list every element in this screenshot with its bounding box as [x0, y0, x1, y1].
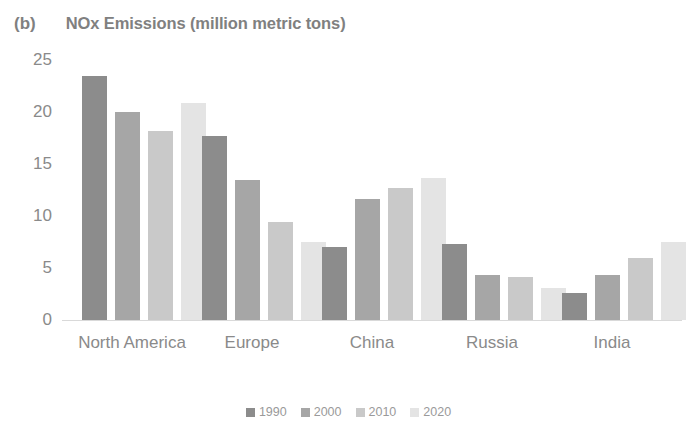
bar [235, 180, 260, 320]
legend-label: 2010 [369, 405, 397, 419]
category-label: China [310, 330, 434, 355]
legend-swatch-icon [410, 408, 419, 417]
bar-group [322, 60, 454, 320]
bar [355, 199, 380, 320]
legend-swatch-icon [301, 408, 310, 417]
bar [202, 136, 227, 320]
bar [661, 242, 686, 320]
panel-label: (b) [14, 14, 36, 34]
plot-area [62, 60, 682, 320]
legend-label: 1990 [259, 405, 287, 419]
chart-legend: 1990200020102020 [0, 405, 697, 419]
nox-emissions-bar-chart: (b) NOx Emissions (million metric tons) … [0, 0, 697, 439]
bar [628, 258, 653, 320]
legend-label: 2000 [314, 405, 342, 419]
category-label: Russia [430, 330, 554, 355]
y-axis-tick-15: 15 [0, 154, 52, 174]
legend-item[interactable]: 1990 [246, 405, 287, 419]
bar [442, 244, 467, 320]
chart-title-row: (b) NOx Emissions (million metric tons) [14, 14, 346, 34]
category-label: Europe [190, 330, 314, 355]
legend-swatch-icon [356, 408, 365, 417]
bar [475, 275, 500, 320]
legend-item[interactable]: 2020 [410, 405, 451, 419]
legend-swatch-icon [246, 408, 255, 417]
legend-item[interactable]: 2010 [356, 405, 397, 419]
y-axis-tick-5: 5 [0, 258, 52, 278]
legend-item[interactable]: 2000 [301, 405, 342, 419]
bar [388, 188, 413, 320]
category-label: India [550, 330, 674, 355]
y-axis-tick-labels: 2520151050 [0, 60, 52, 320]
bar-group [202, 60, 334, 320]
bar-group [82, 60, 214, 320]
bar [508, 277, 533, 320]
y-axis-tick-25: 25 [0, 50, 52, 70]
y-axis-tick-20: 20 [0, 102, 52, 122]
y-axis-tick-10: 10 [0, 206, 52, 226]
bar [562, 293, 587, 320]
bar [595, 275, 620, 320]
y-axis-tick-0: 0 [0, 310, 52, 330]
bar [148, 131, 173, 320]
bar-group [442, 60, 574, 320]
bar-group [562, 60, 694, 320]
x-axis-line [62, 320, 682, 321]
legend-label: 2020 [423, 405, 451, 419]
bar [322, 247, 347, 320]
bar [115, 112, 140, 320]
category-label: North America [70, 330, 194, 355]
bar [268, 222, 293, 320]
bar [82, 76, 107, 320]
chart-title: NOx Emissions (million metric tons) [66, 14, 346, 33]
x-axis-category-labels: North AmericaEuropeChinaRussiaIndia [62, 330, 682, 390]
